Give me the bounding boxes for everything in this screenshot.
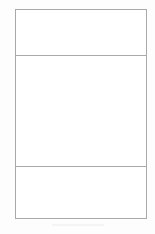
page-root: { "page": { "title": "", "background_col… [0, 0, 155, 234]
panel-body-text [20, 59, 142, 163]
panel-header-text [20, 13, 142, 52]
panel-footer-text [20, 170, 142, 215]
panel-body[interactable] [16, 56, 146, 167]
page-artifact-mark [52, 224, 104, 226]
wireframe-frame [15, 9, 147, 219]
panel-header[interactable] [16, 10, 146, 56]
panel-footer[interactable] [16, 167, 146, 218]
